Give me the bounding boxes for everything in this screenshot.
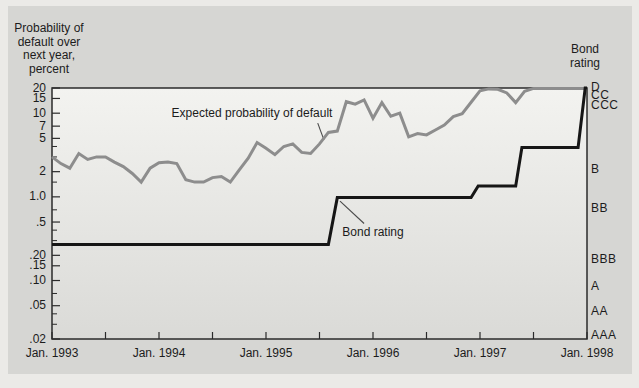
- y-tick-label: .02: [2, 333, 46, 346]
- right-axis-title: Bond rating: [545, 42, 625, 70]
- x-tick-label: Jan. 1995: [231, 347, 301, 360]
- x-tick-label: Jan. 1996: [338, 347, 408, 360]
- y-axis-title-line: default over: [0, 36, 98, 50]
- y-tick-label: .05: [2, 299, 46, 312]
- right-axis-title-line: rating: [545, 56, 625, 70]
- y-tick-label: 2: [2, 165, 46, 178]
- annotation-expected-probability: Expected probability of default: [172, 107, 333, 120]
- annotation-bond-rating: Bond rating: [342, 226, 403, 239]
- rating-label-ccc: CCC: [591, 99, 637, 112]
- x-tick-label: Jan. 1997: [445, 347, 515, 360]
- rating-label-b: B: [591, 163, 637, 176]
- rating-label-aa: AA: [591, 305, 637, 318]
- y-tick-label: .15: [2, 259, 46, 272]
- figure: Probability of default over next year, p…: [0, 0, 639, 388]
- rating-label-bbb: BBB: [591, 253, 637, 266]
- y-tick-label: 15: [2, 92, 46, 105]
- y-tick-label: .10: [2, 274, 46, 287]
- y-axis-title-line: Probability of: [0, 22, 98, 36]
- y-tick-label: 5: [2, 132, 46, 145]
- rating-label-bb: BB: [591, 202, 637, 215]
- y-tick-label: 10: [2, 107, 46, 120]
- x-tick-label: Jan. 1994: [124, 347, 194, 360]
- x-tick-label: Jan. 1998: [552, 347, 622, 360]
- y-tick-label: .5: [2, 216, 46, 229]
- y-axis-title-line: percent: [0, 63, 98, 77]
- x-tick-label: Jan. 1993: [17, 347, 87, 360]
- right-axis-title-line: Bond: [545, 42, 625, 56]
- y-axis-title: Probability of default over next year, p…: [0, 22, 98, 76]
- rating-label-aaa: AAA: [591, 329, 637, 342]
- y-tick-label: 1.0: [2, 190, 46, 203]
- plot-area: [52, 88, 587, 339]
- rating-label-a: A: [591, 280, 637, 293]
- y-axis-title-line: next year,: [0, 49, 98, 63]
